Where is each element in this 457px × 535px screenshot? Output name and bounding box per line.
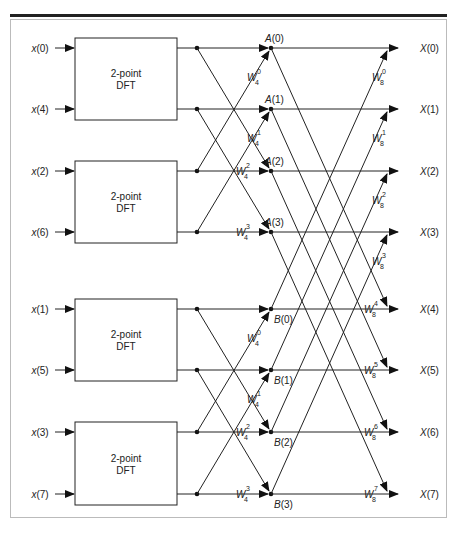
node-label-A3: A(3) [264, 217, 284, 228]
svg-text:7: 7 [374, 485, 378, 492]
output-label: X(2) [419, 166, 439, 177]
dft-block [75, 161, 177, 243]
svg-text:3: 3 [382, 252, 386, 259]
node-label-B2: B(2) [274, 437, 293, 448]
dft-block [75, 422, 177, 505]
node-label-B3: B(3) [274, 499, 293, 510]
stage2-twiddle: W28 [372, 191, 386, 209]
svg-text:4: 4 [255, 401, 259, 408]
stage2-cross-path [271, 48, 387, 306]
dft-block-label: 2-point [111, 68, 142, 79]
output-label: X(4) [419, 304, 439, 315]
output-label: X(1) [419, 104, 439, 115]
stage1-cross-path [197, 370, 269, 491]
svg-text:0: 0 [257, 68, 261, 75]
svg-text:0: 0 [257, 329, 261, 336]
svg-text:4: 4 [255, 79, 259, 86]
stage2-cross-path [271, 109, 387, 367]
svg-text:4: 4 [244, 496, 248, 503]
dft-block [75, 299, 177, 381]
svg-text:6: 6 [374, 423, 378, 430]
stage2-cross-path [271, 174, 387, 432]
svg-text:8: 8 [372, 496, 376, 503]
svg-text:0: 0 [382, 68, 386, 75]
svg-text:8: 8 [380, 140, 384, 147]
node-label-A0: A(0) [264, 33, 284, 44]
dft-block-label: DFT [116, 465, 135, 476]
stage1-cross-path [197, 109, 269, 229]
svg-text:5: 5 [374, 361, 378, 368]
svg-text:4: 4 [244, 234, 248, 241]
stage1-cross-path [197, 48, 269, 168]
dft-block-label: 2-point [111, 329, 142, 340]
input-label: x(2) [30, 166, 48, 177]
svg-text:1: 1 [257, 129, 261, 136]
stage2-twiddle: W38 [372, 252, 386, 270]
node-label-B0: B(0) [274, 314, 293, 325]
svg-text:1: 1 [257, 390, 261, 397]
stage2-twiddle: W18 [372, 129, 386, 147]
output-label: X(0) [419, 43, 439, 54]
svg-text:4: 4 [244, 434, 248, 441]
stage1-cross-path [197, 309, 269, 429]
input-label: x(3) [30, 427, 48, 438]
svg-text:8: 8 [380, 79, 384, 86]
stage1-twiddle: W14 [247, 390, 261, 408]
svg-text:8: 8 [380, 263, 384, 270]
input-label: x(7) [30, 489, 48, 500]
input-label: x(1) [30, 304, 48, 315]
fft-flow-diagram: x(0)x(4)x(2)x(6)x(1)x(5)x(3)x(7)2-pointD… [0, 0, 457, 535]
dft-block-label: 2-point [111, 453, 142, 464]
input-label: x(0) [30, 43, 48, 54]
svg-text:8: 8 [380, 202, 384, 209]
top-rule [10, 14, 447, 17]
svg-text:3: 3 [246, 485, 250, 492]
output-label: X(5) [419, 365, 439, 376]
stage2-cross-path [271, 171, 387, 429]
dft-block-label: DFT [116, 80, 135, 91]
svg-text:4: 4 [255, 140, 259, 147]
svg-text:2: 2 [246, 423, 250, 430]
svg-text:8: 8 [372, 372, 376, 379]
output-label: X(7) [419, 489, 439, 500]
input-label: x(4) [30, 104, 48, 115]
svg-text:8: 8 [372, 311, 376, 318]
svg-text:4: 4 [255, 340, 259, 347]
stage2-cross-path [271, 232, 387, 491]
dft-block-label: DFT [116, 203, 135, 214]
dft-block [75, 38, 177, 120]
node-label-B1: B(1) [274, 375, 293, 386]
node-label-A2: A(2) [264, 156, 284, 167]
svg-text:3: 3 [246, 223, 250, 230]
input-label: x(5) [30, 365, 48, 376]
dft-block-label: 2-point [111, 191, 142, 202]
dft-block-label: DFT [116, 341, 135, 352]
svg-text:2: 2 [246, 162, 250, 169]
svg-text:1: 1 [382, 129, 386, 136]
svg-text:2: 2 [382, 191, 386, 198]
stage2-cross-path [271, 112, 387, 370]
svg-text:4: 4 [374, 300, 378, 307]
output-label: X(6) [419, 427, 439, 438]
svg-text:4: 4 [244, 173, 248, 180]
input-label: x(6) [30, 227, 48, 238]
output-label: X(3) [419, 227, 439, 238]
svg-text:8: 8 [372, 434, 376, 441]
stage2-twiddle: W08 [372, 68, 386, 86]
node-label-A1: A(1) [264, 94, 284, 105]
